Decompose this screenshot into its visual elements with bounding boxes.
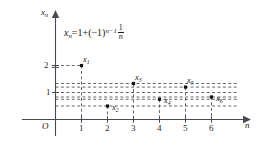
y-axis-label: xn: [41, 8, 48, 18]
y-tick-marks: [52, 66, 212, 123]
dashed-grid-layer: [56, 66, 239, 107]
data-point[interactable]: [158, 98, 161, 101]
x-tick-label: 1: [79, 124, 84, 133]
data-point[interactable]: [210, 95, 213, 98]
data-point[interactable]: [106, 104, 109, 107]
sequence-plot-figure: xn=1+(−1)n−11n 2 1 O n xn 123456 x1x2x3x…: [0, 0, 264, 164]
point-label-x4: x4: [164, 96, 171, 106]
x-tick-label: 4: [157, 124, 162, 133]
origin-label: O: [42, 122, 49, 131]
x-tick-label: 5: [183, 124, 188, 133]
point-label-x2: x2: [112, 103, 119, 113]
point-label-x6: x6: [216, 94, 223, 104]
y-tick-label-1: 1: [46, 88, 51, 97]
point-label-x3: x3: [135, 73, 142, 83]
point-label-x1: x1: [83, 55, 90, 65]
y-tick-label-2: 2: [44, 61, 49, 70]
sequence-formula: xn=1+(−1)n−11n: [64, 24, 124, 41]
x-axis-label: n: [245, 121, 250, 130]
point-label-x5: x5: [187, 76, 194, 86]
x-tick-label: 2: [105, 124, 110, 133]
x-tick-label: 6: [209, 124, 214, 133]
x-tick-label: 3: [131, 124, 136, 133]
plot-canvas: [0, 0, 264, 164]
